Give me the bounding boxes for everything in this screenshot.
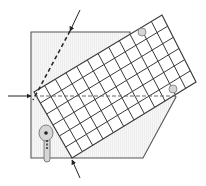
marker-top bbox=[138, 28, 146, 36]
crystal-grid-diagram bbox=[0, 0, 206, 186]
marker-right bbox=[169, 85, 177, 93]
holder-pin-icon bbox=[44, 131, 48, 135]
diagonal-beam-arrow bbox=[70, 10, 80, 31]
bottom-beam-arrow bbox=[72, 160, 80, 178]
